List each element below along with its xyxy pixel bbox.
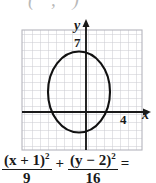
term-2-exponent: 2 <box>111 152 116 161</box>
y-axis-label: y <box>72 18 81 33</box>
x-tick-label-4: 4 <box>120 112 127 127</box>
clipped-top-text-label: ( , ) <box>28 0 85 11</box>
term-2-numerator: (y − 2)2 <box>68 152 118 170</box>
equation-term-2: (y − 2)2 16 <box>68 152 118 183</box>
term-2-numerator-text: (y − 2) <box>70 152 111 168</box>
x-axis-label: x <box>141 107 149 122</box>
term-1-numerator-text: (x + 1) <box>4 152 45 168</box>
ellipse-equation: (x + 1)2 9 + (y − 2)2 16 = <box>0 152 156 183</box>
term-2-denominator: 16 <box>85 170 100 183</box>
term-1-exponent: 2 <box>45 152 50 161</box>
y-tick-label-7: 7 <box>74 35 81 50</box>
equation-relation: = <box>118 155 130 172</box>
graph-svg: y x 7 4 <box>0 18 156 152</box>
term-1-denominator: 9 <box>23 170 31 183</box>
equation-term-1: (x + 1)2 9 <box>2 152 52 183</box>
clipped-top-text: ( , ) <box>0 0 156 14</box>
term-1-numerator: (x + 1)2 <box>2 152 52 170</box>
equation-operator: + <box>52 155 69 172</box>
y-axis-arrowhead <box>83 19 90 27</box>
figure-panel: ( , ) y x 7 4 <box>0 0 156 183</box>
coordinate-graph: y x 7 4 <box>0 18 156 152</box>
